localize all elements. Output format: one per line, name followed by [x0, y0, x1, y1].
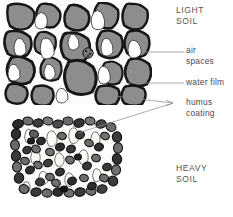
- label-air-spaces-line1: air: [186, 45, 214, 56]
- label-humus-coating-line1: humus: [186, 97, 215, 108]
- label-light-soil-line1: LIGHT: [176, 5, 204, 16]
- light-soil-panel: [4, 3, 151, 106]
- soil-particle: [125, 59, 151, 87]
- soil-grain: [28, 138, 35, 144]
- label-humus-coating: humus coating: [186, 97, 215, 118]
- soil-particle: [122, 85, 146, 105]
- humus-coating-marker-light: [83, 48, 93, 58]
- soil-grain: [12, 161, 22, 172]
- label-air-spaces-line2: spaces: [186, 56, 214, 67]
- soil-particle: [6, 84, 28, 104]
- label-heavy-soil-line1: HEAVY: [176, 163, 207, 174]
- soil-grain: [11, 128, 21, 140]
- soil-grain: [60, 186, 67, 192]
- heavy-soil-panel: [10, 116, 123, 198]
- label-heavy-soil-line2: SOIL: [176, 174, 207, 185]
- label-light-soil-line2: SOIL: [176, 16, 204, 27]
- soil-particle: [7, 4, 34, 30]
- label-water-film: water film: [186, 77, 224, 88]
- label-water-film-line1: water film: [186, 77, 224, 88]
- label-heavy-soil: HEAVY SOIL: [176, 163, 207, 184]
- soil-grain: [75, 154, 82, 160]
- label-air-spaces: air spaces: [186, 45, 214, 66]
- soil-particle: [122, 4, 147, 30]
- label-humus-coating-line2: coating: [186, 108, 215, 119]
- label-light-soil: LIGHT SOIL: [176, 5, 204, 26]
- soil-particle: [64, 5, 89, 31]
- soil-particle: [32, 85, 54, 105]
- soil-particle: [65, 60, 97, 94]
